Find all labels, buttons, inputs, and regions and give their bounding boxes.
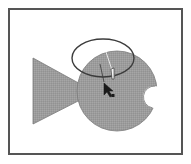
fish-illustration bbox=[0, 0, 191, 164]
fish-shape[interactable] bbox=[33, 51, 157, 131]
